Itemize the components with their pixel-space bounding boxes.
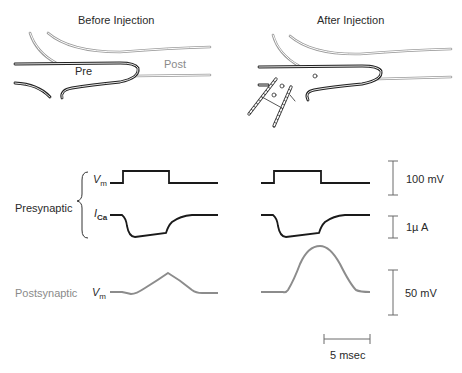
- after-synapse-drawing: [249, 35, 451, 126]
- pre-vm-label: Vm: [93, 174, 107, 188]
- presynaptic-label: Presynaptic: [15, 203, 72, 214]
- scale-100mv-label: 100 mV: [406, 174, 444, 185]
- pre-vm-trace-before: [110, 171, 218, 183]
- post-vm-trace-after: [261, 246, 370, 292]
- scale-1ua-label: 1µ A: [406, 222, 428, 233]
- pre-ica-trace-after: [261, 215, 370, 237]
- scale-bars: [324, 161, 398, 344]
- pre-label: Pre: [75, 66, 92, 77]
- postsynaptic-label: Postsynaptic: [15, 288, 77, 299]
- pre-ica-label: ICa: [94, 208, 107, 222]
- post-vm-label: Vm: [92, 287, 106, 301]
- figure: Before Injection After Injection: [0, 0, 462, 373]
- scale-50mv-label: 50 mV: [405, 288, 437, 299]
- scale-5msec-label: 5 msec: [330, 350, 365, 361]
- diagram-drawing: [0, 0, 462, 373]
- post-vm-trace-before: [110, 273, 218, 294]
- post-label: Post: [164, 59, 186, 70]
- presynaptic-brace: [77, 172, 88, 238]
- pre-vm-trace-after: [261, 171, 370, 183]
- pre-ica-trace-before: [110, 215, 218, 237]
